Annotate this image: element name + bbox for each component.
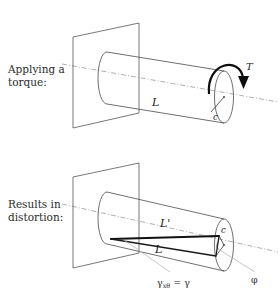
twist-angle-leader-line	[218, 249, 255, 272]
twist-radius-upper	[219, 236, 224, 245]
shear-strain-subscript: xθ	[163, 282, 171, 290]
deformed-line-Lprime	[111, 236, 219, 239]
label-deformed-length-Lprime: L'	[159, 217, 170, 230]
diagram-canvas: c L T	[0, 0, 280, 298]
top-panel-group: c L T	[62, 23, 278, 128]
label-radius-c-bottom: c	[221, 225, 226, 235]
shaft-left-end-arc-top	[98, 52, 107, 104]
torque-arrow-head	[238, 76, 249, 89]
shaft-left-end-arc-bottom	[98, 192, 107, 244]
shaft-top-edge-bottom	[107, 192, 224, 219]
label-torque-T: T	[246, 61, 254, 72]
shaft-bottom-edge	[107, 104, 224, 123]
shear-strain-rhs: γ	[184, 277, 190, 288]
label-radius-c-top: c	[213, 112, 218, 122]
label-twist-angle-phi: φ	[251, 274, 258, 285]
fixed-support-plane-bottom	[73, 163, 139, 268]
label-shear-strain-equation: γxθ = γ	[157, 277, 190, 290]
fixed-support-plane-top	[73, 23, 139, 128]
bottom-panel-group: c L' L γxθ = γ φ	[62, 163, 278, 290]
label-original-length-L-bottom: L	[154, 243, 162, 256]
label-length-L-top: L	[151, 96, 159, 109]
torsion-figure: Applying a torque: Results in distortion…	[0, 0, 280, 298]
radius-line-top	[211, 97, 224, 112]
shaft-top-edge	[107, 52, 224, 71]
shear-strain-equals-sign: =	[173, 277, 181, 288]
end-face-center-dot-top	[223, 96, 225, 98]
end-face-center-dot-bottom	[223, 244, 225, 246]
